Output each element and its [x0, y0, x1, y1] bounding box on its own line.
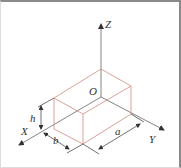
- x-axis-label: X: [20, 125, 29, 137]
- a-extension-front: [83, 144, 99, 154]
- b-extension-bottom: [67, 144, 83, 153]
- h-extension-top: [38, 98, 54, 107]
- diagram-frame: Z O X Y h b a: [0, 0, 181, 168]
- height-label: h: [30, 112, 36, 124]
- isometric-box-diagram: Z O X Y h b a: [1, 2, 181, 168]
- length-label: a: [115, 125, 121, 137]
- y-axis: [101, 97, 164, 130]
- z-axis-label: Z: [105, 18, 112, 30]
- origin-label: O: [89, 85, 97, 97]
- a-extension-right: [131, 114, 144, 122]
- width-label: b: [53, 134, 59, 146]
- box-edge-bottom-right: [83, 114, 131, 144]
- y-axis-label: Y: [149, 133, 157, 145]
